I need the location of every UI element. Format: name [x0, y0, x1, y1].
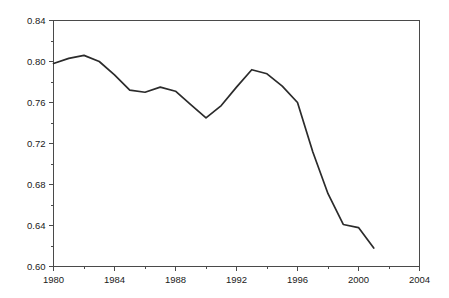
- data-series-group: [54, 55, 374, 248]
- x-tick-label: 1980: [43, 274, 64, 285]
- y-axis-ticks: [49, 21, 54, 267]
- x-tick-label: 1992: [226, 274, 247, 285]
- x-tick-label: 2000: [348, 274, 369, 285]
- y-tick-label: 0.84: [27, 15, 46, 26]
- line-chart-canvas: 1980198419881992199620002004 0.600.640.6…: [0, 0, 449, 298]
- x-tick-label: 1984: [104, 274, 125, 285]
- chart-figure: 1980198419881992199620002004 0.600.640.6…: [0, 0, 449, 298]
- x-axis-tick-labels: 1980198419881992199620002004: [43, 274, 430, 285]
- y-axis-tick-labels: 0.600.640.680.720.760.800.84: [27, 15, 46, 272]
- x-tick-label: 1988: [165, 274, 186, 285]
- plot-frame: [54, 21, 420, 267]
- y-tick-label: 0.64: [27, 220, 46, 231]
- y-tick-label: 0.68: [27, 179, 46, 190]
- y-tick-label: 0.80: [27, 56, 46, 67]
- y-tick-label: 0.60: [27, 261, 46, 272]
- x-tick-label: 2004: [409, 274, 430, 285]
- x-axis-ticks: [54, 267, 420, 272]
- plot-border: [54, 21, 420, 267]
- y-tick-label: 0.72: [27, 138, 46, 149]
- y-tick-label: 0.76: [27, 97, 46, 108]
- x-tick-label: 1996: [287, 274, 308, 285]
- data-line-series-1: [54, 55, 374, 248]
